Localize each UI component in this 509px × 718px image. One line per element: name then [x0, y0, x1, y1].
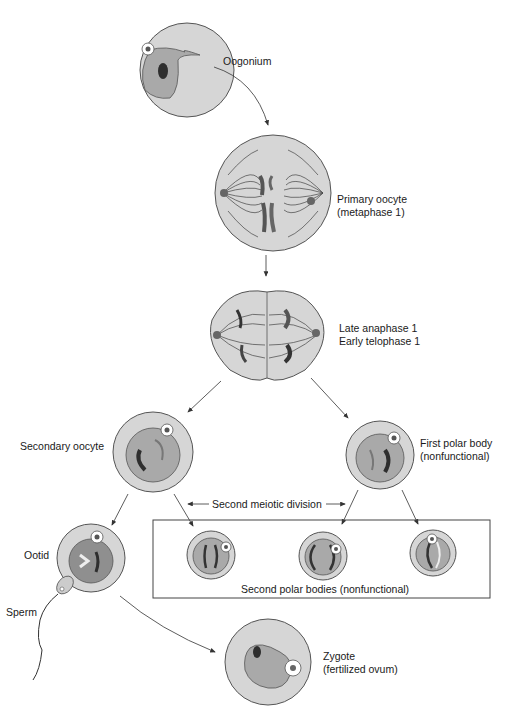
arrow-to-second-polar-body-3	[402, 490, 418, 524]
label-oogonium: Oogonium	[223, 55, 271, 68]
primary-oocyte-cell	[215, 135, 331, 251]
label-zygote-line1: Zygote	[323, 650, 398, 663]
label-second-meiotic-division: Second meiotic division	[212, 498, 322, 511]
label-anaphase-line2: Early telophase 1	[339, 335, 420, 348]
arrow-to-ootid	[112, 494, 128, 525]
label-zygote: Zygote (fertilized ovum)	[323, 650, 398, 676]
second-polar-body-2	[299, 532, 347, 580]
label-first-polar-body: First polar body (nonfunctional)	[420, 437, 492, 463]
arrow-to-first-polar-body	[311, 378, 348, 418]
oogenesis-diagram	[0, 0, 509, 718]
second-polar-body-3	[410, 530, 456, 576]
arrow-to-second-polar-body-2	[342, 490, 358, 524]
label-sperm: Sperm	[6, 606, 37, 619]
label-primary-oocyte-line2: (metaphase 1)	[337, 206, 407, 219]
first-polar-body-cell	[346, 421, 414, 489]
oogonium-cell	[140, 23, 234, 117]
label-ootid: Ootid	[24, 549, 49, 562]
label-first-polar-body-line1: First polar body	[420, 437, 492, 450]
arrow-to-zygote	[120, 596, 215, 652]
secondary-oocyte-cell	[113, 412, 193, 492]
label-first-polar-body-line2: (nonfunctional)	[420, 450, 492, 463]
label-anaphase: Late anaphase 1 Early telophase 1	[339, 322, 420, 348]
label-primary-oocyte: Primary oocyte (metaphase 1)	[337, 193, 407, 219]
label-secondary-oocyte: Secondary oocyte	[20, 440, 104, 453]
second-polar-body-1	[187, 531, 235, 579]
label-zygote-line2: (fertilized ovum)	[323, 663, 398, 676]
label-primary-oocyte-line1: Primary oocyte	[337, 193, 407, 206]
arrow-to-secondary-oocyte	[188, 381, 221, 412]
sperm	[33, 573, 77, 680]
label-second-polar-bodies: Second polar bodies (nonfunctional)	[241, 583, 409, 596]
zygote-cell	[225, 619, 311, 705]
arrow-to-second-polar-body-1	[174, 494, 193, 526]
anaphase-cell	[210, 291, 323, 380]
label-anaphase-line1: Late anaphase 1	[339, 322, 420, 335]
